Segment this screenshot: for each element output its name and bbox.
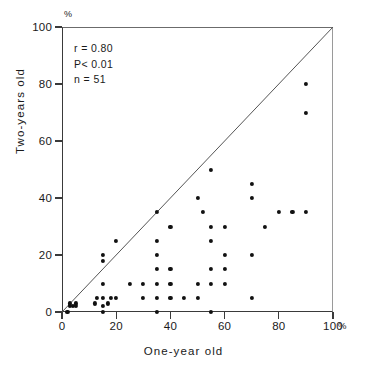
data-point xyxy=(209,167,213,171)
data-point xyxy=(250,296,254,300)
data-point xyxy=(101,304,105,308)
data-point xyxy=(95,296,99,300)
data-point xyxy=(223,253,227,257)
data-point xyxy=(101,253,105,257)
data-point xyxy=(65,310,69,314)
x-axis-tick xyxy=(332,312,333,319)
data-point xyxy=(155,281,159,285)
data-point xyxy=(128,281,132,285)
x-axis-tick-label: 20 xyxy=(110,320,123,332)
data-point xyxy=(223,281,227,285)
data-point xyxy=(101,296,105,300)
data-point xyxy=(250,182,254,186)
data-point xyxy=(168,267,172,271)
scatter-plot-figure: % 020406080100 020406080100 % One-year o… xyxy=(0,0,367,373)
data-point xyxy=(304,210,308,214)
data-point xyxy=(304,82,308,86)
data-point xyxy=(304,110,308,114)
x-axis-tick-label: 80 xyxy=(272,320,285,332)
x-axis-tick-label: 60 xyxy=(218,320,231,332)
data-point xyxy=(223,267,227,271)
x-axis-tick xyxy=(116,312,117,319)
data-point xyxy=(277,210,281,214)
data-point xyxy=(209,310,213,314)
data-point xyxy=(155,267,159,271)
data-point xyxy=(195,296,199,300)
x-axis-tick-label: 0 xyxy=(59,320,66,332)
data-point xyxy=(290,210,294,214)
data-point xyxy=(209,224,213,228)
data-point xyxy=(223,224,227,228)
data-point xyxy=(155,253,159,257)
x-axis-tick-label: 40 xyxy=(164,320,177,332)
data-point xyxy=(195,196,199,200)
y-axis-tick xyxy=(55,197,62,198)
data-point xyxy=(155,239,159,243)
data-point xyxy=(168,281,172,285)
data-point xyxy=(209,239,213,243)
data-point xyxy=(168,296,172,300)
data-point xyxy=(250,196,254,200)
stat-correlation: r = 0.80 xyxy=(74,41,113,57)
data-point xyxy=(155,210,159,214)
data-point xyxy=(73,304,77,308)
data-point xyxy=(250,253,254,257)
data-point xyxy=(101,259,105,263)
x-axis-tick xyxy=(170,312,171,319)
stat-pvalue: P< 0.01 xyxy=(74,57,113,73)
y-axis-tick xyxy=(55,26,62,27)
y-axis-title: Two-years old xyxy=(14,36,26,186)
data-point xyxy=(109,296,113,300)
data-point xyxy=(114,296,118,300)
data-point xyxy=(195,281,199,285)
data-point xyxy=(182,296,186,300)
data-point xyxy=(101,281,105,285)
data-point xyxy=(263,224,267,228)
y-axis-tick xyxy=(55,254,62,255)
y-axis-title-wrap: Two-years old xyxy=(0,0,40,373)
x-axis-tick xyxy=(61,312,62,319)
data-point xyxy=(114,239,118,243)
x-axis-tick xyxy=(224,312,225,319)
y-axis-tick xyxy=(55,83,62,84)
statistics-annotation: r = 0.80 P< 0.01 n = 51 xyxy=(74,41,113,88)
data-point xyxy=(201,210,205,214)
x-axis-tick xyxy=(278,312,279,319)
data-point xyxy=(92,301,96,305)
y-axis-unit-label: % xyxy=(64,9,72,19)
x-axis-title: One-year old xyxy=(0,345,367,357)
data-point xyxy=(141,281,145,285)
data-point xyxy=(106,301,110,305)
data-point xyxy=(209,281,213,285)
data-point xyxy=(155,310,159,314)
data-point xyxy=(168,224,172,228)
data-point xyxy=(209,267,213,271)
y-axis-tick xyxy=(55,140,62,141)
stat-sample-size: n = 51 xyxy=(74,72,113,88)
data-point xyxy=(141,296,145,300)
data-point xyxy=(155,296,159,300)
x-axis-unit-label: % xyxy=(338,320,346,331)
data-point xyxy=(101,310,105,314)
